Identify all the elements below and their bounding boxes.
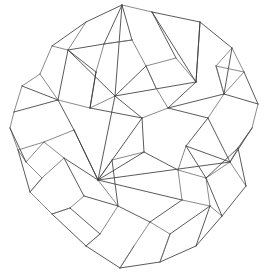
figure-background — [0, 0, 268, 280]
polyhedron-wireframe-figure — [0, 0, 268, 280]
